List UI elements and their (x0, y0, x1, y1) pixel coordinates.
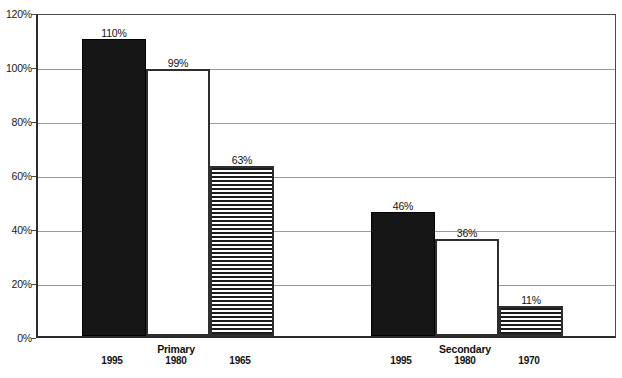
bar-primary-1965 (210, 166, 274, 336)
x-label-secondary-1970: 1970 (479, 356, 579, 366)
bar-value-secondary-1995: 46% (353, 201, 453, 212)
bar-value-secondary-1980: 36% (417, 228, 517, 239)
bar-value-secondary-1970: 11% (481, 295, 581, 306)
bar-secondary-1970 (499, 306, 563, 336)
bar-value-primary-1995: 110% (64, 28, 164, 39)
bar-chart: 0%20%40%60%80%100%120% 110%99%63%46%36%1… (0, 0, 622, 378)
y-tick-label-0%: 0% (0, 333, 32, 344)
bar-primary-1995 (82, 39, 146, 336)
y-tick-label-40%: 40% (0, 225, 32, 236)
plot-area: 110%99%63%46%36%11% (36, 14, 616, 338)
bar-value-primary-1965: 63% (192, 155, 292, 166)
y-tick-label-60%: 60% (0, 171, 32, 182)
x-label-primary-1965: 1965 (190, 356, 290, 366)
y-tick-label-80%: 80% (0, 117, 32, 128)
x-group-label-secondary: Secondary (405, 344, 525, 355)
y-tick-label-120%: 120% (0, 9, 32, 20)
y-tick-mark-0% (31, 338, 36, 339)
y-tick-label-20%: 20% (0, 279, 32, 290)
y-tick-label-100%: 100% (0, 63, 32, 74)
bar-primary-1980 (146, 69, 210, 336)
x-group-label-primary: Primary (116, 344, 236, 355)
bar-value-primary-1980: 99% (128, 58, 228, 69)
bar-secondary-1980 (435, 239, 499, 336)
